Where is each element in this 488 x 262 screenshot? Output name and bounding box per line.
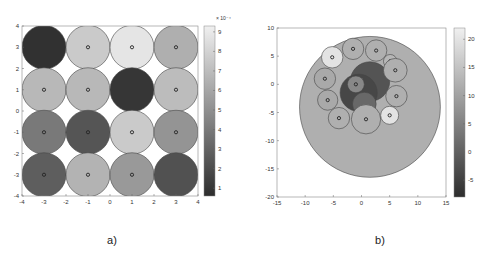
y-tick-label: -5 bbox=[269, 110, 275, 116]
colorbar bbox=[454, 28, 465, 197]
colorbar-tick-label: 5 bbox=[468, 121, 472, 127]
colorbar-tick-label: 3 bbox=[218, 146, 222, 152]
data-circle bbox=[314, 68, 335, 89]
x-tick-label: -10 bbox=[301, 200, 310, 206]
x-tick-label: -4 bbox=[19, 199, 25, 205]
colorbar-a-exponent: × 10⁻⁴ bbox=[216, 15, 231, 21]
data-circle bbox=[322, 47, 343, 68]
data-circle bbox=[318, 90, 338, 110]
data-circle bbox=[154, 153, 198, 197]
y-tick-label: -3 bbox=[14, 172, 20, 178]
data-circle bbox=[154, 68, 198, 112]
panel-b-label: b) bbox=[375, 234, 385, 246]
colorbar-tick-label: 10 bbox=[468, 93, 475, 99]
colorbar-tick-label: 8 bbox=[218, 48, 222, 54]
circles-group bbox=[300, 36, 441, 177]
y-tick-label: 5 bbox=[271, 53, 275, 59]
y-tick-label: 10 bbox=[267, 25, 274, 31]
x-tick-label: 1 bbox=[130, 199, 134, 205]
data-circle bbox=[66, 25, 110, 69]
data-circle bbox=[351, 105, 380, 134]
x-tick-label: 0 bbox=[108, 199, 112, 205]
panel-b: -15-10-5051015-20-15-10-50510-505101520 bbox=[265, 25, 475, 206]
x-tick-label: 5 bbox=[388, 200, 392, 206]
data-circle bbox=[22, 110, 66, 154]
y-tick-label: -20 bbox=[265, 194, 274, 200]
data-circle bbox=[110, 68, 154, 112]
data-circle bbox=[22, 68, 66, 112]
data-circle bbox=[154, 110, 198, 154]
data-circle bbox=[328, 107, 349, 128]
y-tick-label: 0 bbox=[16, 108, 20, 114]
y-tick-label: 2 bbox=[16, 66, 20, 72]
panel-a: -4-3-2-101234-4-3-2-101234123456789 bbox=[14, 23, 222, 205]
data-circle bbox=[22, 153, 66, 197]
colorbar-tick-label: 0 bbox=[468, 149, 472, 155]
data-circle bbox=[66, 153, 110, 197]
y-tick-label: 4 bbox=[16, 23, 20, 29]
colorbar-tick-label: 4 bbox=[218, 127, 222, 133]
y-tick-label: 3 bbox=[16, 44, 20, 50]
x-tick-label: 3 bbox=[174, 199, 178, 205]
x-tick-label: -3 bbox=[41, 199, 47, 205]
y-tick-label: -2 bbox=[14, 151, 20, 157]
colorbar-tick-label: 6 bbox=[218, 87, 222, 93]
data-circle bbox=[347, 76, 364, 93]
data-circle bbox=[383, 58, 407, 82]
data-circle bbox=[381, 106, 399, 124]
figure: -4-3-2-101234-4-3-2-101234123456789 -15-… bbox=[0, 0, 488, 262]
panel-a-label: a) bbox=[107, 234, 117, 246]
x-tick-label: -2 bbox=[63, 199, 69, 205]
data-circle bbox=[386, 85, 407, 106]
x-tick-label: -1 bbox=[85, 199, 91, 205]
data-circle bbox=[110, 153, 154, 197]
colorbar-tick-label: 5 bbox=[218, 107, 222, 113]
data-circle bbox=[110, 110, 154, 154]
colorbar-tick-label: 7 bbox=[218, 68, 222, 74]
colorbar-tick-label: 9 bbox=[218, 29, 222, 35]
x-tick-label: -15 bbox=[273, 200, 282, 206]
x-tick-label: 0 bbox=[360, 200, 364, 206]
y-tick-label: 0 bbox=[271, 81, 275, 87]
colorbar-tick-label: 20 bbox=[468, 36, 475, 42]
x-tick-label: -5 bbox=[331, 200, 337, 206]
x-tick-label: 10 bbox=[414, 200, 421, 206]
data-circle bbox=[66, 68, 110, 112]
data-circle bbox=[66, 110, 110, 154]
data-circle bbox=[154, 25, 198, 69]
data-circle bbox=[22, 25, 66, 69]
x-tick-label: 4 bbox=[196, 199, 200, 205]
colorbar-tick-label: 1 bbox=[218, 185, 222, 191]
y-tick-label: -4 bbox=[14, 193, 20, 199]
data-circle bbox=[365, 40, 386, 61]
y-tick-label: -10 bbox=[265, 138, 274, 144]
y-tick-label: -15 bbox=[265, 166, 274, 172]
x-tick-label: 15 bbox=[443, 200, 450, 206]
data-circle bbox=[110, 25, 154, 69]
y-tick-label: -1 bbox=[14, 129, 20, 135]
y-tick-label: 1 bbox=[16, 87, 20, 93]
colorbar-tick-label: -5 bbox=[468, 177, 474, 183]
colorbar-tick-label: 15 bbox=[468, 64, 475, 70]
colorbar-tick-label: 2 bbox=[218, 166, 222, 172]
x-tick-label: 2 bbox=[152, 199, 156, 205]
data-circle bbox=[342, 38, 363, 59]
